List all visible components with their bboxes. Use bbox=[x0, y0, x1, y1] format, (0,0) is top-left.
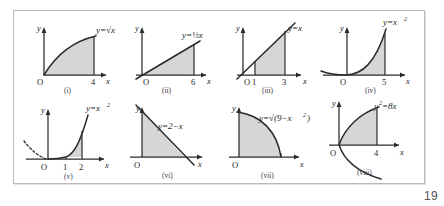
panel-v: y x O 1 2 y=x 2 (v) bbox=[18, 97, 119, 181]
axis-x-label: x bbox=[105, 76, 110, 86]
origin-label: O bbox=[143, 77, 149, 87]
equation-tail: =8x bbox=[382, 101, 397, 111]
panel-i: y x O 4 y=√x (i) bbox=[18, 13, 119, 97]
panel-vi: y x O y=2−x (vi) bbox=[118, 97, 219, 181]
axis-x-label: x bbox=[399, 147, 404, 157]
panel-roman-label: (ii) bbox=[162, 86, 172, 95]
panel-iii: y x O 1 3 y=x (iii) bbox=[217, 13, 318, 97]
x-tick-5: 5 bbox=[382, 77, 386, 87]
panel-roman-label: (iii) bbox=[262, 86, 274, 95]
equation-label: y=√x bbox=[95, 25, 115, 35]
x-tick-3: 3 bbox=[282, 77, 286, 87]
equation-label: y bbox=[373, 101, 378, 111]
axis-x-label: x bbox=[299, 159, 304, 169]
equation-exponent: 2 bbox=[404, 15, 407, 22]
origin-label: O bbox=[134, 160, 140, 170]
equation-label: y=½x bbox=[181, 30, 203, 40]
x-tick-6: 6 bbox=[191, 77, 195, 87]
figure-frame: y x O 4 y=√x (i) y x O 6 y= bbox=[13, 10, 425, 184]
axis-y-label: y bbox=[36, 23, 41, 33]
axis-y-label: y bbox=[134, 23, 139, 33]
origin-label: O bbox=[244, 77, 250, 87]
axis-x-label: x bbox=[104, 160, 109, 170]
x-tick-4: 4 bbox=[91, 77, 96, 87]
axis-x-label: x bbox=[302, 76, 307, 86]
equation-tail: ) bbox=[306, 113, 310, 123]
x-tick-1: 1 bbox=[252, 77, 256, 87]
panel-roman-label: (vii) bbox=[261, 171, 274, 180]
origin-label: O bbox=[37, 77, 43, 87]
panel-iv: y x O 5 y=x 2 (iv) bbox=[317, 13, 418, 97]
x-tick-1: 1 bbox=[63, 162, 67, 172]
panel-roman-label: (i) bbox=[64, 86, 72, 95]
page-number: 19 bbox=[424, 189, 438, 203]
panel-grid: y x O 4 y=√x (i) y x O 6 y= bbox=[14, 11, 424, 183]
equation-label: y=x bbox=[382, 17, 397, 27]
origin-label: O bbox=[41, 162, 47, 172]
axis-y-label: y bbox=[135, 103, 140, 113]
origin-label: O bbox=[330, 148, 336, 158]
origin-label: O bbox=[340, 77, 346, 87]
axis-x-label: x bbox=[405, 76, 410, 86]
panel-roman-label: (viii) bbox=[357, 168, 372, 177]
panel-ii: y x O 6 y=½x (ii) bbox=[118, 13, 219, 97]
equation-label: y=x bbox=[287, 23, 302, 33]
equation-exponent: 2 bbox=[303, 111, 306, 118]
panel-roman-label: (iv) bbox=[365, 86, 376, 95]
equation-label: y=x bbox=[85, 103, 100, 113]
origin-label: O bbox=[232, 160, 238, 170]
equation-exponent: 2 bbox=[107, 101, 110, 108]
x-tick-4: 4 bbox=[374, 148, 379, 158]
axis-y-label: y bbox=[331, 98, 336, 108]
axis-y-label: y bbox=[235, 23, 240, 33]
equation-label: y=2−x bbox=[157, 121, 183, 131]
equation-label: y=√(9−x bbox=[258, 113, 292, 123]
axis-y-label: y bbox=[339, 23, 344, 33]
panel-roman-label: (vi) bbox=[162, 171, 173, 180]
panel-vii: y x O y=√(9−x 2 ) (vii) bbox=[217, 97, 318, 181]
axis-x-label: x bbox=[197, 159, 202, 169]
axis-y-label: y bbox=[40, 105, 45, 115]
axis-y-label: y bbox=[231, 103, 236, 113]
x-tick-2: 2 bbox=[79, 162, 83, 172]
axis-x-label: x bbox=[206, 76, 211, 86]
panel-viii: y x O 4 y 2 =8x (viii) bbox=[317, 97, 418, 181]
panel-roman-label: (v) bbox=[64, 172, 73, 181]
